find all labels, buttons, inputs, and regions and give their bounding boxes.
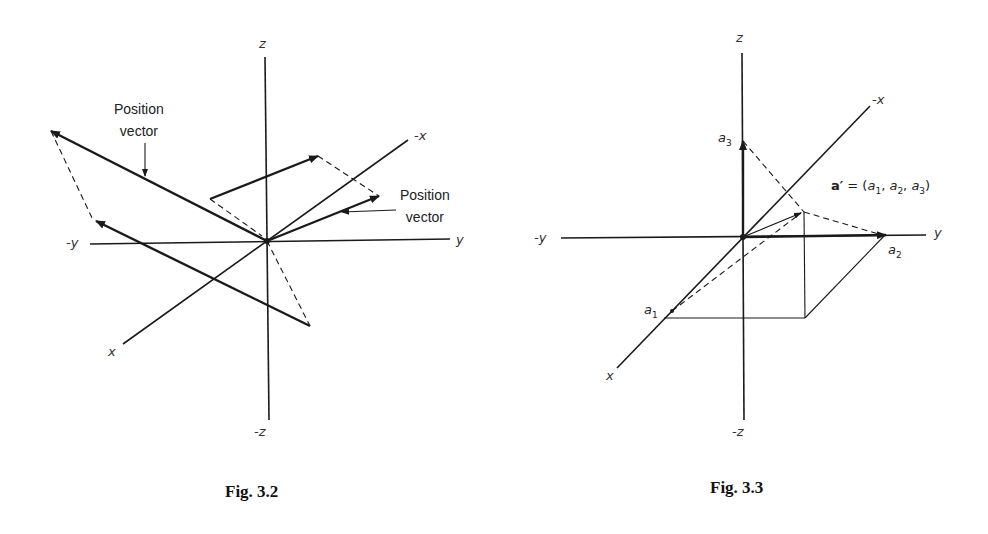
a1-label: a1 — [644, 302, 658, 320]
dashed-a1-to-tip — [672, 213, 801, 311]
a3-label: a3 — [718, 130, 732, 148]
figure-caption: Fig. 3.3 — [710, 478, 763, 498]
a2-component — [743, 235, 886, 237]
vector-upper — [210, 156, 318, 199]
figure-3-3-diagram — [494, 0, 988, 534]
neg-y-axis-label: -y — [66, 235, 78, 250]
neg-z-axis-label: -z — [254, 424, 266, 439]
x-axis-label: x — [606, 368, 614, 383]
z-axis-label: z — [259, 36, 266, 51]
figure-3-3: z -z y -y x -x a3 a2 a1 a′ = (a1, a2, a3… — [494, 0, 988, 534]
neg-y-axis-label: -y — [534, 230, 546, 245]
y-axis-label: y — [934, 225, 942, 240]
position-vector-left — [51, 131, 267, 241]
y-axis-label: y — [456, 232, 464, 247]
position-vector-label-left: Position vector — [114, 98, 164, 142]
dashed-upper-right — [318, 156, 379, 196]
neg-z-axis-label: -z — [732, 424, 744, 439]
vertical-drop — [804, 212, 805, 318]
dashed-tip-to-a2 — [804, 212, 882, 235]
a2-label: a2 — [888, 242, 902, 260]
position-vector-label-right: Position vector — [400, 184, 450, 228]
dashed-lower-right — [267, 241, 310, 326]
z-axis-label: z — [736, 30, 743, 45]
vector-a-prime-formula: a′ = (a1, a2, a3) — [831, 178, 930, 196]
dashed-left — [51, 131, 93, 220]
x-axis-label: x — [108, 344, 116, 359]
diagonal-to-a2 — [805, 235, 885, 318]
figure-3-2: z -z y -y x -x Position vector Position … — [0, 0, 494, 534]
figure-3-2-diagram — [0, 0, 494, 534]
neg-x-axis-label: -x — [872, 92, 884, 107]
position-vector-right — [267, 196, 379, 241]
dashed-upper-left — [210, 199, 262, 236]
figure-caption: Fig. 3.2 — [225, 482, 278, 502]
neg-x-axis-label: -x — [414, 128, 426, 143]
pointer-right — [342, 210, 396, 212]
vector-a-prime — [743, 213, 801, 237]
dashed-a3-to-tip — [743, 141, 804, 212]
